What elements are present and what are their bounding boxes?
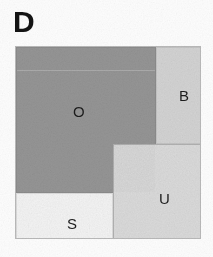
panel-label: D [13,6,35,38]
scan-seam-line [17,70,155,71]
tile-noise-s [17,194,113,239]
treemap-tile-u[interactable]: U [113,144,201,239]
tile-noise-u [114,145,201,239]
treemap-tile-label: S [67,216,77,231]
treemap-tile-s[interactable]: S [16,193,113,239]
treemap-tile-b[interactable]: B [156,47,201,144]
treemap-tile-label: U [159,191,170,206]
treemap-tile-label: B [179,88,189,103]
figure-panel-d: D OBUS [0,0,213,257]
treemap-plot-area: OBUS [15,46,201,239]
treemap-tile-label: O [73,104,85,119]
